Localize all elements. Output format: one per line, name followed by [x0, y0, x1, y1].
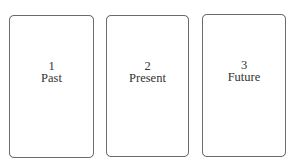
card-past: 1 Past	[9, 15, 94, 158]
card-title: Past	[10, 72, 93, 84]
card-label: 1 Past	[10, 60, 93, 84]
card-title: Present	[107, 72, 188, 84]
card-label: 2 Present	[107, 60, 188, 84]
card-present: 2 Present	[106, 15, 189, 157]
card-title: Future	[203, 71, 285, 83]
card-label: 3 Future	[203, 59, 285, 83]
card-future: 3 Future	[202, 14, 286, 157]
